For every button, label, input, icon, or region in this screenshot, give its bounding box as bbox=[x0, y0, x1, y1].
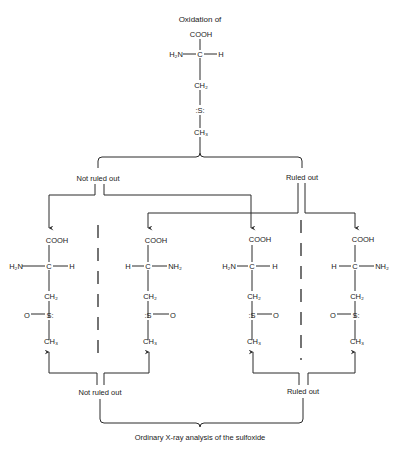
arrow-to-molecule-3 bbox=[104, 184, 251, 228]
alpha-carbon: C bbox=[46, 262, 51, 271]
methylene-group: CH₂ bbox=[143, 292, 157, 301]
sulfur-atom: :S bbox=[144, 311, 151, 320]
carboxyl-group: COOH bbox=[249, 235, 272, 244]
bottom-brace bbox=[100, 398, 303, 427]
top-not-ruled-out-label: Not ruled out bbox=[77, 174, 120, 183]
alpha-carbon: C bbox=[249, 262, 254, 271]
sulfur-atom: :S bbox=[248, 311, 255, 320]
left-substituent: H bbox=[125, 262, 130, 271]
caption: Ordinary X-ray analysis of the sulfoxide bbox=[135, 433, 265, 442]
right-substituent: NH₂ bbox=[375, 262, 389, 271]
methylene-group: CH₂ bbox=[44, 292, 58, 301]
arrow-up-molecule-1 bbox=[49, 352, 97, 385]
methylene-group: CH₂ bbox=[350, 292, 364, 301]
left-substituent: H₂N bbox=[9, 262, 23, 271]
carboxyl-group: COOH bbox=[46, 236, 69, 245]
arrow-to-molecule-2 bbox=[148, 183, 298, 228]
left-substituent: H₂N bbox=[222, 262, 236, 271]
arrow-up-molecule-4 bbox=[308, 352, 355, 385]
right-substituent: H bbox=[69, 262, 74, 271]
methylene-group: CH₂ bbox=[247, 292, 261, 301]
oxygen-right: O bbox=[170, 311, 176, 320]
amino-group: H₂N bbox=[169, 50, 183, 59]
carboxyl-group: COOH bbox=[352, 235, 375, 244]
arrow-up-molecule-3 bbox=[253, 352, 299, 385]
top-brace bbox=[98, 153, 302, 168]
bottom-not-ruled-out-label: Not ruled out bbox=[79, 388, 122, 397]
methyl-group: CH₃ bbox=[194, 128, 208, 137]
methylene-group: CH₂ bbox=[194, 81, 208, 90]
oxygen-right: O bbox=[273, 311, 279, 320]
methyl-group: CH₃ bbox=[44, 337, 58, 346]
oxygen-left: O bbox=[330, 311, 336, 320]
carboxyl-group: COOH bbox=[190, 30, 213, 39]
alpha-carbon: C bbox=[197, 50, 202, 59]
left-substituent: H bbox=[331, 262, 336, 271]
alpha-carbon: C bbox=[352, 262, 357, 271]
bottom-ruled-out-label: Ruled out bbox=[287, 387, 319, 396]
carboxyl-group: COOH bbox=[145, 236, 168, 245]
hydrogen: H bbox=[218, 50, 223, 59]
methyl-group: CH₃ bbox=[247, 337, 261, 346]
sulfur-atom: S: bbox=[46, 311, 53, 320]
right-substituent: NH₂ bbox=[168, 262, 182, 271]
methyl-group: CH₃ bbox=[143, 337, 157, 346]
sulfur-atom: :S: bbox=[195, 106, 204, 115]
arrow-to-molecule-1 bbox=[49, 184, 95, 228]
arrow-to-molecule-4 bbox=[305, 183, 355, 228]
diagram-title: Oxidation of bbox=[179, 15, 222, 24]
arrow-up-molecule-2 bbox=[104, 352, 149, 385]
sulfur-atom: S: bbox=[352, 311, 359, 320]
alpha-carbon: C bbox=[145, 262, 150, 271]
top-ruled-out-label: Ruled out bbox=[286, 173, 318, 182]
oxygen-left: O bbox=[24, 311, 30, 320]
methyl-group: CH₃ bbox=[350, 337, 364, 346]
right-substituent: H bbox=[272, 262, 277, 271]
diagram-lines bbox=[0, 0, 401, 449]
